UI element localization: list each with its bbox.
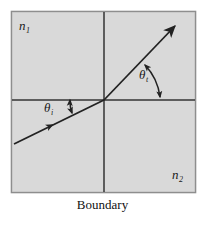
- medium-n2-subscript: 2: [179, 175, 183, 184]
- theta-t-subscript: t: [146, 75, 148, 84]
- medium-n1-symbol: n: [19, 18, 26, 33]
- figure-caption: Boundary: [0, 197, 205, 213]
- refraction-diagram: [0, 0, 205, 226]
- medium-label-n1: n1: [19, 19, 30, 32]
- medium-n2-symbol: n: [172, 167, 179, 182]
- theta-t-symbol: θ: [139, 67, 145, 82]
- theta-i-symbol: θ: [44, 100, 50, 115]
- angle-label-theta-t: θt: [139, 68, 148, 81]
- angle-label-theta-i: θi: [44, 101, 53, 114]
- medium-label-n2: n2: [172, 168, 183, 181]
- refraction-figure: n1 n2 θt θi Boundary: [0, 0, 205, 226]
- medium-n1-subscript: 1: [26, 26, 30, 35]
- theta-i-subscript: i: [51, 108, 53, 117]
